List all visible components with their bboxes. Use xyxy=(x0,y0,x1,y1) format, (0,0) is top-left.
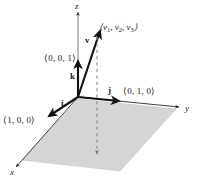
unit-vector-k-label: k xyxy=(70,72,75,81)
vector-diagram-figure: x y z i j k v ⟨1, 0, 0⟩ ⟨0, 1, 0⟩ ⟨0, 0,… xyxy=(0,0,198,184)
x-axis-label: x xyxy=(10,168,14,177)
vector-v-label: v xyxy=(85,36,90,45)
vector-i-components-label: ⟨1, 0, 0⟩ xyxy=(3,116,35,125)
vector-j-components-label: ⟨0, 1, 0⟩ xyxy=(123,87,155,96)
xy-plane-region xyxy=(22,99,176,171)
vector-k-components-label: ⟨0, 0, 1⟩ xyxy=(44,54,76,63)
z-axis-label: z xyxy=(75,2,79,11)
unit-vector-j-label: j xyxy=(108,86,111,95)
vector-v-components-label: ⟨v1, v2, v3⟩ xyxy=(99,23,138,32)
unit-vector-i-label: i xyxy=(61,99,64,108)
y-axis-label: y xyxy=(185,104,189,113)
